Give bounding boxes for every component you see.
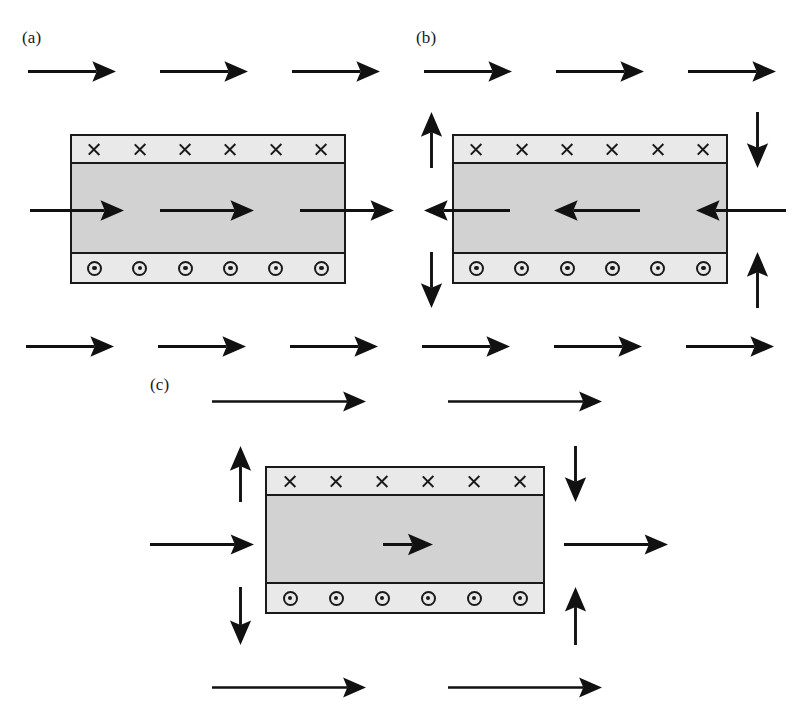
- interior-arrow-icon: [160, 198, 248, 217]
- top-row-arrow-2-icon: [556, 59, 638, 78]
- cross-into-page-icon: [605, 142, 620, 157]
- dot-out-of-page-icon: [467, 591, 482, 606]
- cross-into-page-icon: [268, 142, 283, 157]
- dot-out-of-page-icon: [223, 261, 238, 276]
- cross-into-page-icon: [514, 142, 529, 157]
- cross-into-page-icon: [223, 142, 238, 157]
- cross-into-page-icon: [283, 474, 298, 489]
- top-row-arrow-1-icon: [424, 59, 506, 78]
- interior-left-arrow-icon: [554, 198, 634, 217]
- top-row-arrow-3-icon: [292, 59, 374, 78]
- mid-row-arrow-6-icon: [686, 334, 768, 353]
- lower-right-up-arrow-icon: [563, 587, 582, 639]
- mid-row-arrow-3-icon: [290, 334, 372, 353]
- bottom-surface-current-band-b: [454, 252, 726, 282]
- mid-row-arrow-1-icon: [26, 334, 108, 353]
- inflow-left-arrow-icon: [696, 198, 780, 217]
- cross-into-page-icon: [178, 142, 193, 157]
- outflow-arrow-icon: [564, 532, 662, 551]
- mid-row-arrow-5-icon: [554, 334, 636, 353]
- lower-left-down-arrow-icon: [228, 587, 247, 639]
- top-surface-current-band-c: [267, 468, 543, 496]
- dot-out-of-page-icon: [375, 591, 390, 606]
- dot-out-of-page-icon: [314, 261, 329, 276]
- upper-right-down-arrow-icon: [745, 112, 764, 162]
- cross-into-page-icon: [329, 474, 344, 489]
- magnetization-figure: (a)(b)(c): [0, 0, 805, 728]
- top-row-arrow-2-icon: [160, 59, 242, 78]
- cross-into-page-icon: [650, 142, 665, 157]
- cross-into-page-icon: [467, 474, 482, 489]
- dot-out-of-page-icon: [560, 261, 575, 276]
- bottom-surface-current-band-a: [72, 252, 344, 282]
- bottom-row-arrow-2-icon: [448, 675, 596, 694]
- dot-out-of-page-icon: [178, 261, 193, 276]
- panel-label-c: (c): [150, 375, 169, 395]
- upper-right-down-arrow-icon: [563, 446, 582, 496]
- cross-into-page-icon: [132, 142, 147, 157]
- lower-right-up-arrow-icon: [745, 252, 764, 302]
- dot-out-of-page-icon: [421, 591, 436, 606]
- outflow-arrow-icon: [300, 198, 388, 217]
- cross-into-page-icon: [87, 142, 102, 157]
- cross-into-page-icon: [560, 142, 575, 157]
- inflow-arrow-icon: [30, 198, 118, 217]
- cross-into-page-icon: [469, 142, 484, 157]
- panel-label-a: (a): [22, 28, 41, 48]
- cross-into-page-icon: [421, 474, 436, 489]
- bottom-row-arrow-1-icon: [212, 675, 360, 694]
- dot-out-of-page-icon: [605, 261, 620, 276]
- panel-label-b: (b): [416, 28, 436, 48]
- upper-row-arrow-2-icon: [448, 389, 596, 408]
- cross-into-page-icon: [375, 474, 390, 489]
- top-surface-current-band-b: [454, 136, 726, 164]
- dot-out-of-page-icon: [514, 261, 529, 276]
- cross-into-page-icon: [314, 142, 329, 157]
- cross-into-page-icon: [696, 142, 711, 157]
- top-row-arrow-1-icon: [28, 59, 110, 78]
- dot-out-of-page-icon: [329, 591, 344, 606]
- inflow-arrow-icon: [150, 532, 248, 551]
- dot-out-of-page-icon: [87, 261, 102, 276]
- dot-out-of-page-icon: [650, 261, 665, 276]
- cross-into-page-icon: [513, 474, 528, 489]
- mid-row-arrow-2-icon: [158, 334, 240, 353]
- dot-out-of-page-icon: [283, 591, 298, 606]
- mid-row-arrow-4-icon: [422, 334, 504, 353]
- lower-left-down-arrow-icon: [419, 252, 438, 302]
- upper-left-up-arrow-icon: [228, 446, 247, 496]
- dot-out-of-page-icon: [132, 261, 147, 276]
- upper-row-arrow-1-icon: [212, 389, 360, 408]
- outflow-left-arrow-icon: [424, 198, 504, 217]
- dot-out-of-page-icon: [469, 261, 484, 276]
- dot-out-of-page-icon: [268, 261, 283, 276]
- dot-out-of-page-icon: [696, 261, 711, 276]
- bottom-surface-current-band-c: [267, 582, 543, 612]
- interior-arrow-icon: [383, 532, 427, 551]
- dot-out-of-page-icon: [513, 591, 528, 606]
- upper-left-up-arrow-icon: [419, 112, 438, 162]
- top-row-arrow-3-icon: [688, 59, 770, 78]
- top-surface-current-band-a: [72, 136, 344, 164]
